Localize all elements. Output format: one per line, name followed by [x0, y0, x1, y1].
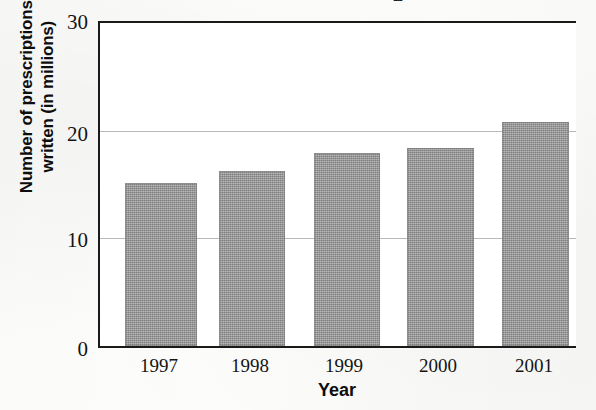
plot-area — [98, 21, 576, 348]
bar-1998[interactable] — [219, 171, 285, 346]
bar-1999[interactable] — [314, 153, 380, 346]
y-tick-label-0: 0 — [44, 339, 88, 360]
x-axis-title: Year — [98, 380, 576, 401]
x-tick-label-1998: 1998 — [210, 356, 290, 375]
y-tick-label-10: 10 — [44, 230, 88, 251]
clipped-title-fragment: g — [392, 0, 404, 1]
x-tick-label-2000: 2000 — [398, 356, 478, 375]
x-tick-label-1999: 1999 — [304, 356, 384, 375]
chart-figure: g 30 20 10 0 Number of prescriptions wri… — [0, 0, 596, 410]
y-axis-title: Number of prescriptions written (in mill… — [17, 0, 58, 227]
y-axis-title-line-2: written (in millions) — [38, 0, 59, 227]
y-axis-title-line-1: Number of prescriptions — [17, 0, 38, 227]
bar-1997[interactable] — [125, 183, 197, 346]
bar-2001[interactable] — [502, 122, 569, 346]
bar-2000[interactable] — [407, 148, 474, 346]
x-tick-label-2001: 2001 — [494, 356, 574, 375]
x-tick-label-1997: 1997 — [119, 356, 199, 375]
